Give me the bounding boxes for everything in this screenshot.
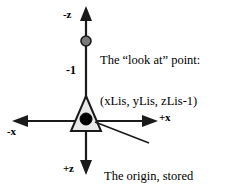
- axis-label-neg-z: -z: [63, 9, 71, 21]
- pos-z-arrowhead: [80, 160, 92, 175]
- annotation-look-at-line-1: The “look at” point:: [100, 54, 200, 68]
- annotation-look-at-line-2: (xLis, yLis, zLis-1): [100, 95, 200, 109]
- look-at-point-marker: [81, 36, 91, 46]
- annotation-origin: The origin, stored in (xLis, yLis, zLis): [104, 143, 204, 184]
- axis-label-pos-z: +z: [63, 163, 74, 175]
- origin-point-marker: [80, 113, 92, 125]
- tick-label-minus-one: -1: [66, 64, 76, 77]
- annotation-look-at-point: The “look at” point: (xLis, yLis, zLis-1…: [100, 27, 200, 135]
- annotation-origin-line-1: The origin, stored: [104, 170, 204, 184]
- coordinate-system-diagram: -z +z -x +x -1 The “look at” point: (xLi…: [0, 0, 228, 184]
- neg-z-arrowhead: [80, 6, 92, 21]
- axis-label-neg-x: -x: [7, 126, 16, 138]
